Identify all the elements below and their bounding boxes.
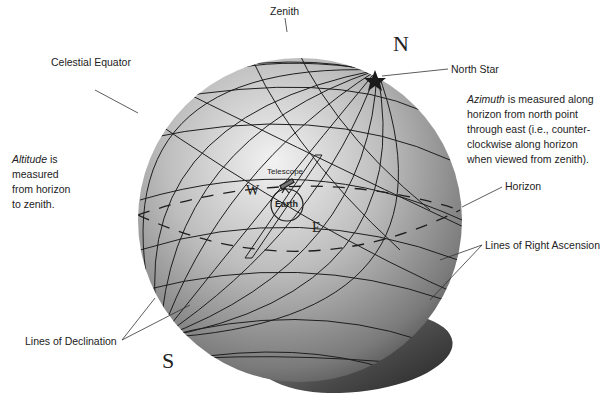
zenith-leader: [285, 18, 287, 32]
south-pole-label: S: [162, 348, 174, 374]
lines-of-declination-label: Lines of Declination: [25, 334, 117, 348]
lines-of-right-ascension-label: Lines of Right Ascension: [485, 238, 600, 252]
earth-label: Earth: [275, 199, 298, 209]
north-pole-label: N: [393, 31, 409, 57]
telescope-label: Telescope: [267, 167, 303, 176]
zenith-label: Zenith: [270, 4, 299, 18]
north-star-leader: [382, 69, 448, 76]
horizon-label: Horizon: [505, 179, 541, 193]
horizon-leader: [462, 187, 502, 207]
azimuth-note: Azimuth is measured along horizon from n…: [467, 92, 594, 167]
east-label: E: [312, 220, 321, 236]
azimuth-term: Azimuth: [467, 93, 505, 105]
north-star-label: North Star: [451, 62, 499, 76]
celestial-sphere: [138, 58, 462, 382]
celestial-equator-label: Celestial Equator: [51, 55, 131, 69]
altitude-note: Altitude is measured from horizon to zen…: [12, 152, 70, 212]
west-label: W: [246, 183, 259, 199]
declination-leader-1: [122, 298, 155, 340]
altitude-term: Altitude: [12, 153, 47, 165]
celestial-equator-leader: [95, 90, 138, 113]
